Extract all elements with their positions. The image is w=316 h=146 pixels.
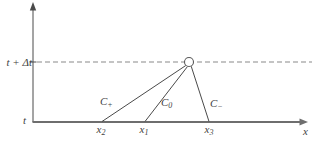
x3-subscript: 3 [209, 128, 213, 137]
x-axis-label: x [303, 125, 308, 137]
x1-point-label: x1 [135, 123, 153, 137]
x2-point-label: x2 [92, 123, 110, 137]
t-axis-arrowhead-icon [30, 2, 36, 11]
c-plus-label: C+ [100, 95, 113, 109]
characteristic-line-c-minus [191, 66, 209, 121]
t-label: t [16, 114, 26, 126]
node-circle [185, 58, 194, 67]
c-zero-label: C0 [161, 96, 172, 110]
characteristic-line-c-zero [145, 67, 188, 122]
c-minus-label: C− [210, 97, 223, 111]
diagram-canvas [0, 0, 316, 146]
c-plus-subscript: + [107, 100, 112, 109]
characteristics-diagram: t + Δt t x x2 x1 x3 C+ C0 C− [0, 0, 316, 146]
t-plus-dt-label: t + Δt [2, 56, 32, 68]
characteristic-line-c-plus [102, 66, 186, 122]
c-minus-subscript: − [217, 102, 222, 111]
x3-point-label: x3 [200, 123, 218, 137]
x2-subscript: 2 [101, 128, 105, 137]
c-zero-subscript: 0 [168, 101, 172, 110]
x1-subscript: 1 [144, 128, 148, 137]
